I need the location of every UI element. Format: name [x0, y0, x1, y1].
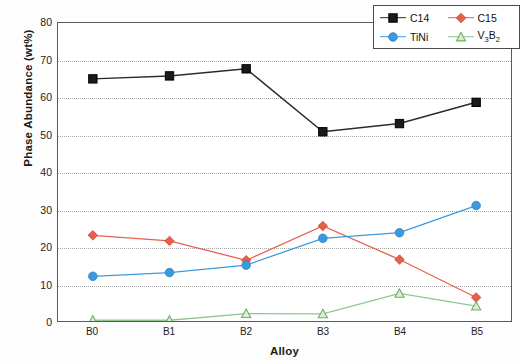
data-point: [472, 98, 480, 106]
series-line: [93, 293, 476, 320]
series-V3B2: [88, 289, 480, 321]
x-tick-label: B0: [62, 326, 122, 337]
legend-item-C15[interactable]: C15: [448, 12, 516, 24]
y-tick-label: 60: [18, 91, 52, 103]
data-point: [318, 221, 328, 231]
y-tick-label: 20: [18, 241, 52, 253]
legend-swatch: [380, 36, 406, 38]
legend-item-C14[interactable]: C14: [380, 12, 448, 24]
x-tick-label: B3: [293, 326, 353, 337]
x-axis-title: Alloy: [57, 345, 512, 357]
data-point: [165, 268, 174, 277]
data-point: [319, 128, 327, 136]
data-point: [242, 261, 251, 270]
legend-marker-icon: [454, 12, 468, 24]
data-point: [456, 13, 466, 23]
series-line: [93, 69, 476, 132]
legend-label: TiNi: [410, 31, 428, 43]
data-point: [395, 289, 404, 297]
series-line: [93, 226, 476, 298]
x-tick-label: B5: [447, 326, 507, 337]
y-tick-label: 30: [18, 204, 52, 216]
chart-figure: Phase Abundance (wt%) Alloy 807060504030…: [0, 0, 520, 362]
series-C14: [89, 65, 481, 136]
data-point: [472, 201, 481, 210]
data-point: [395, 255, 405, 265]
series-line: [93, 206, 476, 277]
data-point: [242, 65, 250, 73]
series-canvas: [58, 23, 511, 321]
data-point: [456, 32, 465, 41]
y-axis-tick-labels: 80706050403020100: [10, 0, 52, 362]
legend-marker-icon: [386, 12, 400, 24]
legend-swatch: [380, 17, 406, 19]
legend-label: V3B2: [478, 29, 500, 44]
y-tick-label: 0: [18, 316, 52, 328]
y-tick-label: 40: [18, 166, 52, 178]
y-tick-label: 70: [18, 54, 52, 66]
x-tick-label: B4: [370, 326, 430, 337]
chart-legend: C14C15TiNiV3B2: [373, 5, 520, 49]
data-point: [89, 75, 97, 83]
legend-item-V3B2[interactable]: V3B2: [448, 29, 516, 44]
plot-area: [57, 22, 512, 322]
data-point: [319, 234, 328, 243]
data-point: [389, 32, 398, 41]
legend-marker-icon: [454, 31, 468, 43]
data-point: [395, 228, 404, 237]
data-point: [389, 13, 397, 21]
series-C15: [88, 221, 481, 302]
legend-label: C15: [478, 12, 497, 24]
y-tick-label: 50: [18, 129, 52, 141]
y-tick-label: 10: [18, 279, 52, 291]
legend-label: C14: [410, 12, 429, 24]
data-point: [88, 231, 98, 241]
x-tick-label: B1: [139, 326, 199, 337]
y-tick-label: 80: [18, 16, 52, 28]
data-point: [395, 119, 403, 127]
legend-swatch: [448, 17, 474, 19]
data-point: [165, 236, 175, 246]
legend-marker-icon: [386, 31, 400, 43]
series-TiNi: [89, 201, 481, 280]
data-point: [89, 272, 98, 281]
legend-swatch: [448, 36, 474, 38]
data-point: [165, 72, 173, 80]
legend-item-TiNi[interactable]: TiNi: [380, 31, 448, 43]
x-tick-label: B2: [216, 326, 276, 337]
